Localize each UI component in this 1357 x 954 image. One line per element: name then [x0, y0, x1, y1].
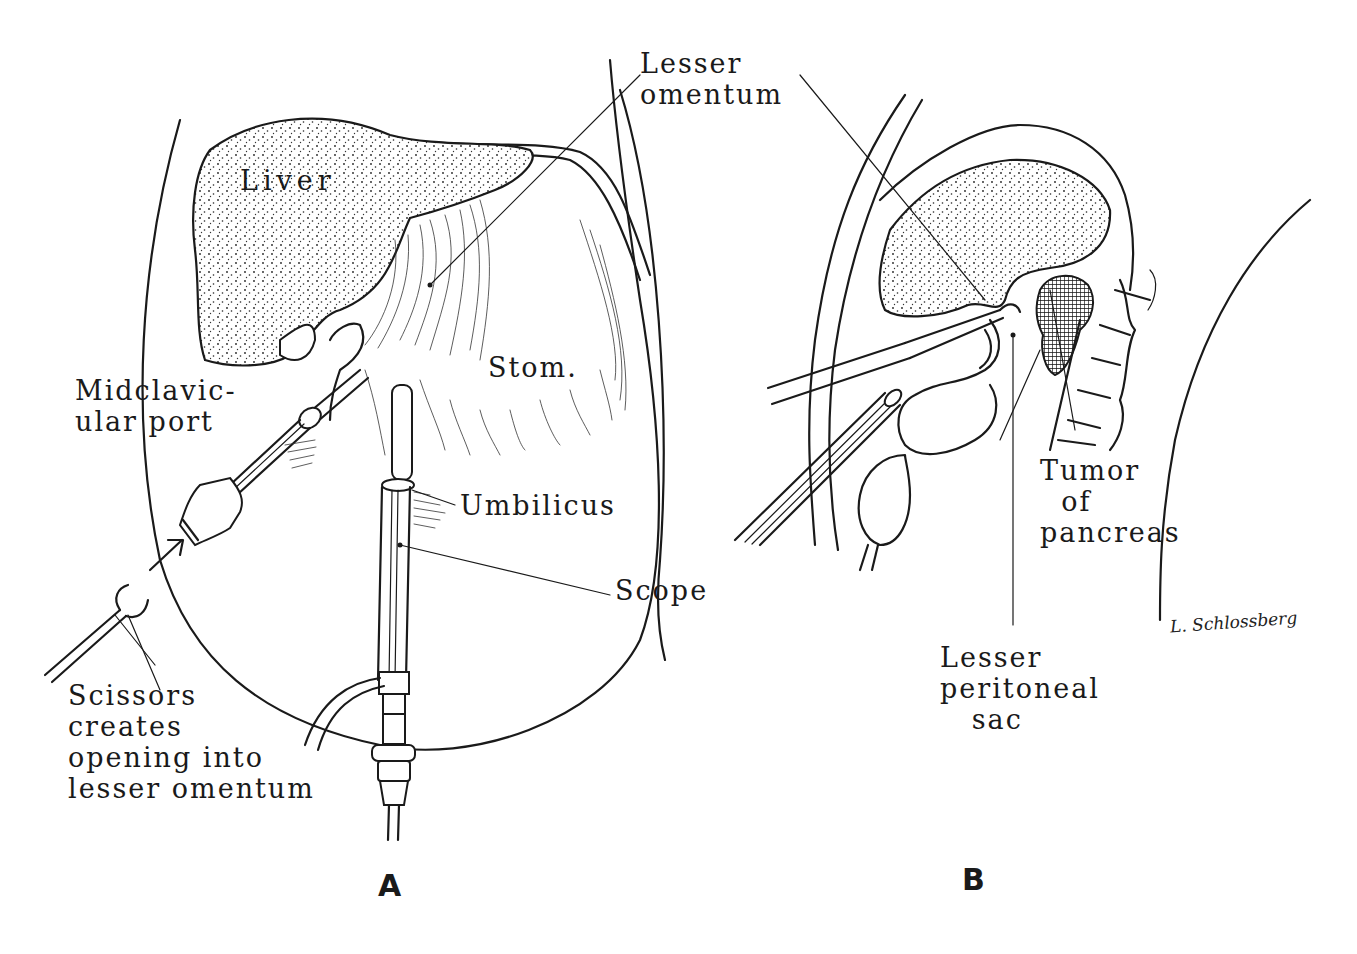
pancreatic-tumor [1037, 276, 1093, 375]
panel-letter-b: B [962, 862, 985, 897]
panel-b-drawing [735, 75, 1310, 625]
label-midclavicular-port: Midclavic- ular port [75, 375, 237, 437]
scope-instrument [305, 385, 445, 840]
scope-b-instrument [735, 387, 904, 545]
scissors-instrument [45, 585, 160, 690]
port-cap [180, 478, 242, 545]
label-liver: Liver [240, 165, 336, 196]
label-umbilicus: Umbilicus [460, 490, 616, 521]
grasper-instrument [768, 304, 1020, 404]
label-lesser-peritoneal-sac: Lesser peritoneal sac [940, 642, 1100, 735]
label-lesser-omentum: Lesser omentum [640, 48, 783, 110]
label-scope: Scope [615, 575, 708, 606]
label-stomach: Stom. [488, 352, 578, 383]
bowel-loop-lower [859, 455, 910, 545]
label-tumor-of-pancreas: Tumor of pancreas [1040, 455, 1181, 548]
label-scissors: Scissors creates opening into lesser ome… [68, 680, 315, 804]
panel-letter-a: A [378, 868, 401, 903]
liver-shape [193, 119, 533, 366]
arrow [150, 540, 182, 570]
